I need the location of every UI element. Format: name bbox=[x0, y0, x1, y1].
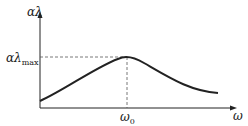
y-axis-label: αλ bbox=[27, 6, 43, 18]
y-max-label-main: αλ bbox=[6, 51, 22, 65]
response-curve bbox=[40, 57, 218, 101]
x-axis-label: ω bbox=[233, 110, 243, 122]
y-max-label-sub: max bbox=[22, 58, 39, 67]
omega0-label-sub: 0 bbox=[130, 117, 135, 126]
omega0-label-main: ω bbox=[120, 110, 130, 124]
diagram: αλ αλmax ω ω0 bbox=[0, 0, 248, 126]
omega0-label: ω0 bbox=[120, 111, 135, 126]
y-max-label: αλmax bbox=[6, 52, 39, 67]
